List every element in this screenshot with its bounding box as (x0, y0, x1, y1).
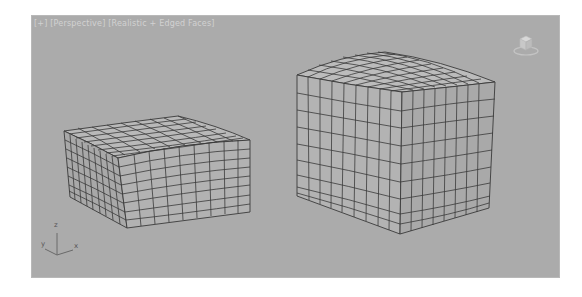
axis-z-label: z (54, 221, 58, 229)
box-convex-top[interactable] (297, 52, 495, 234)
perspective-viewport[interactable]: [+] [Perspective] [Realistic + Edged Fac… (31, 15, 560, 278)
axis-y-label: y (41, 240, 45, 248)
axis-x-label: x (74, 242, 78, 250)
axis-tripod-icon (31, 15, 111, 278)
